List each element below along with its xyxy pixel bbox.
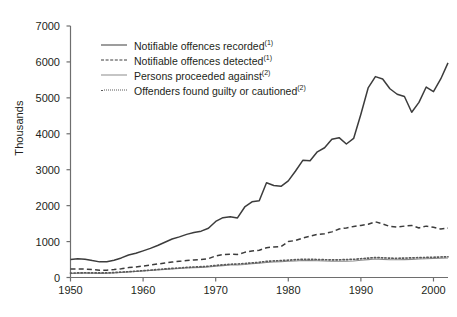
legend-item-detected: Notifiable offences detected(1) xyxy=(101,53,306,66)
chart-figure: Thousands 01000200030004000500060007000 … xyxy=(0,0,457,317)
series-line-3 xyxy=(71,257,449,273)
legend-label-proceeded: Persons proceeded against(2) xyxy=(134,69,270,81)
grey-line-sample-icon xyxy=(101,70,127,80)
dotted-line-sample-icon xyxy=(101,85,127,95)
chart-legend: Notifiable offences recorded(1) Notifiab… xyxy=(101,38,306,96)
solid-line-sample-icon xyxy=(101,40,127,50)
legend-item-recorded: Notifiable offences recorded(1) xyxy=(101,38,306,51)
dashed-line-sample-icon xyxy=(101,55,127,65)
legend-label-detected: Notifiable offences detected(1) xyxy=(134,54,272,66)
legend-label-guilty: Offenders found guilty or cautioned(2) xyxy=(134,84,306,96)
legend-item-proceeded: Persons proceeded against(2) xyxy=(101,68,306,81)
legend-item-guilty: Offenders found guilty or cautioned(2) xyxy=(101,83,306,96)
legend-label-recorded: Notifiable offences recorded(1) xyxy=(134,39,273,51)
